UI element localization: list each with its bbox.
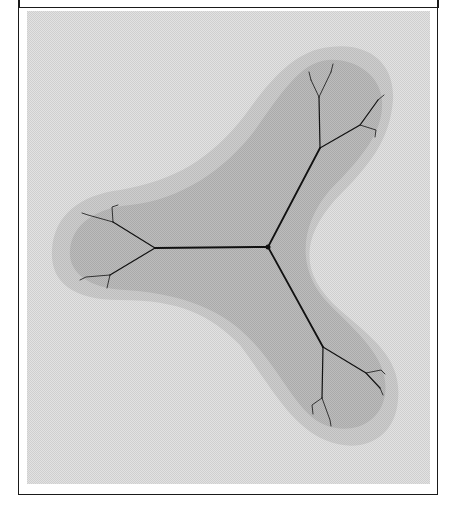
fractal-figure bbox=[27, 11, 430, 484]
